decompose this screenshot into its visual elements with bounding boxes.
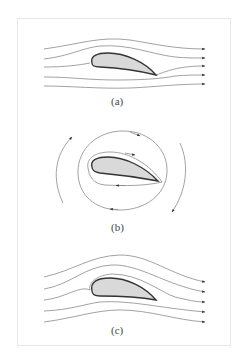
airfoil-c: [92, 278, 156, 300]
panel-label-c: (c): [111, 324, 124, 337]
panel-a: (a): [44, 39, 205, 108]
airfoil-a: [92, 53, 156, 75]
panel-b: (b): [56, 131, 185, 234]
airfoil-b: [92, 157, 158, 181]
airfoil-flow-figure: (a) (b) (c): [0, 0, 246, 364]
panel-label-a: (a): [111, 95, 124, 108]
figure-canvas: (a) (b) (c): [0, 0, 246, 364]
panel-label-b: (b): [111, 221, 124, 234]
panel-c: (c): [44, 255, 205, 337]
